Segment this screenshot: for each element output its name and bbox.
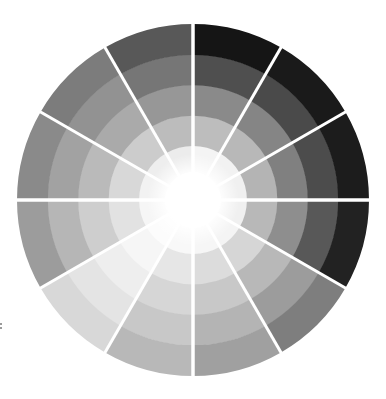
- stray-mark: [0, 327, 2, 329]
- wheel-hub: [165, 172, 221, 228]
- grayscale-color-wheel: [0, 0, 386, 399]
- stray-mark: [0, 323, 2, 325]
- wheel-graphic: [0, 0, 386, 399]
